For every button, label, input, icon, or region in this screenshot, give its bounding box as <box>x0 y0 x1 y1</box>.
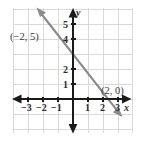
y-axis-label: y <box>76 8 80 18</box>
x-tick-label-neg1: −1 <box>51 103 62 113</box>
x-tick-label-neg3: −3 <box>21 103 32 113</box>
y-tick-label-1: 1 <box>63 80 68 90</box>
y-tick-label-5: 5 <box>63 20 68 30</box>
x-tick-label-1: 1 <box>85 103 90 113</box>
point-label-neg2-5: (−2, 5) <box>10 32 39 43</box>
point-label-2-0: (2, 0) <box>101 86 124 97</box>
graph-screenshot: −3 −2 −1 1 2 3 1 2 4 5 x y (−2, 5) (2, 0… <box>0 0 142 142</box>
coordinate-plane <box>0 0 142 142</box>
x-tick-label-neg2: −2 <box>36 103 47 113</box>
x-tick-label-3: 3 <box>115 103 120 113</box>
x-tick-label-2: 2 <box>100 103 105 113</box>
y-tick-label-2: 2 <box>63 65 68 75</box>
x-axis-label: x <box>124 103 129 113</box>
y-axis <box>69 8 78 134</box>
y-tick-label-4: 4 <box>63 35 68 45</box>
